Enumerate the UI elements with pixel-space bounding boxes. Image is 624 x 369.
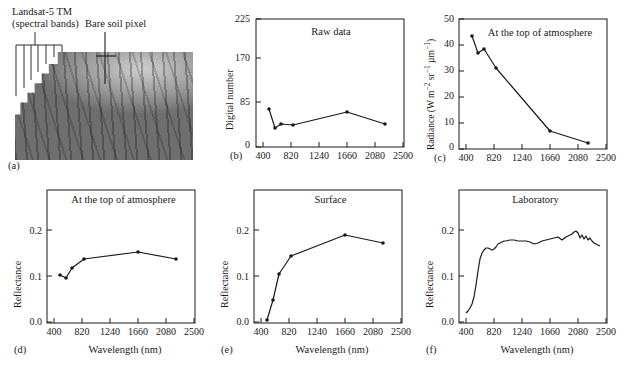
panel-d-letter: (d) [14,344,26,355]
panel-b-letter: (b) [230,150,242,161]
panel-c-radiance-toa: 50 40 30 20 10 0 Radiance (W m−2 sr−1 µm… [412,0,624,180]
panel-f-letter: (f) [426,344,437,355]
panel-f-xlabel: Wavelength (nm) [472,344,602,355]
panel-e-plot [207,186,412,369]
panel-c-markers [470,34,590,145]
panel-d-series [60,252,176,278]
panel-f-plot [412,186,624,369]
panel-d-plot [0,186,205,369]
panel-e-markers [265,233,385,322]
panel-e-letter: (e) [221,344,233,355]
panel-c-series [472,36,588,143]
panel-b-series [269,109,385,128]
panel-f-xtick-5: 2500 [588,326,624,337]
panel-e-reflectance-surface: 0.2 0.1 0.0 Reflectance Surface 400 820 … [207,186,412,369]
panel-a-landsat-image: Landsat-5 TM (spectral bands) Bare soil … [0,0,205,180]
panel-b-raw-data: 225 170 85 0 Digital number Raw data 400… [212,0,408,180]
panel-a-leader-lines [0,0,205,180]
panel-c-letter: (c) [434,152,446,163]
panel-e-series [267,235,383,320]
panel-f-series [466,231,600,313]
panel-f-reflectance-laboratory: 0.2 0.1 0.0 Reflectance Laboratory 400 8… [412,186,624,369]
panel-a-letter: (a) [8,160,20,171]
panel-d-xlabel: Wavelength (nm) [60,344,190,355]
panel-c-xtick-5: 2500 [588,152,624,163]
panel-e-xlabel: Wavelength (nm) [267,344,397,355]
panel-d-reflectance-toa: 0.2 0.1 0.0 Reflectance At the top of at… [0,186,205,369]
